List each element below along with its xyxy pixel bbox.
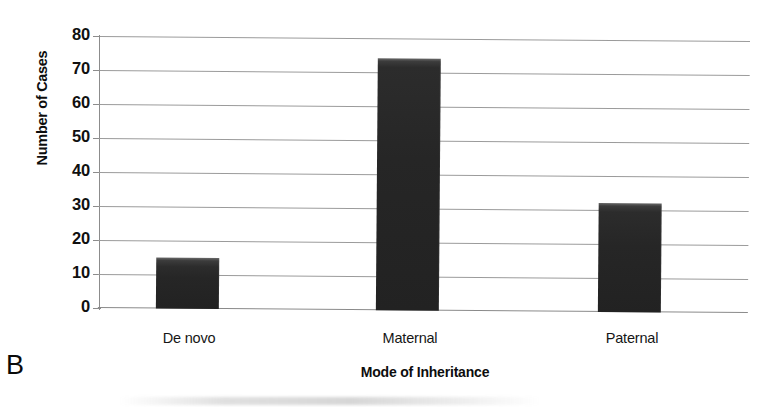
panel-label: B	[6, 352, 24, 379]
x-tick-label-de-novo: De novo	[129, 330, 249, 346]
y-tick-label-30: 30	[38, 196, 90, 213]
y-tick-label-60: 60	[38, 94, 90, 111]
plot-area	[100, 36, 750, 308]
y-tick-label-70: 70	[38, 60, 90, 77]
bar-de-novo[interactable]	[156, 257, 219, 308]
y-tick-label-50: 50	[38, 128, 90, 145]
x-axis-title: Mode of Inheritance	[100, 364, 750, 380]
scan-artifact	[120, 397, 540, 405]
bar-paternal[interactable]	[598, 203, 662, 312]
x-tick-label-maternal: Maternal	[350, 330, 470, 346]
y-axis-tick-labels: 80 70 60 50 40 30 20 10 0	[38, 26, 90, 314]
y-tick-label-80: 80	[38, 26, 90, 43]
x-axis-tick-labels: De novo Maternal Paternal	[100, 330, 750, 356]
y-tick-label-40: 40	[38, 162, 90, 179]
y-tick-label-10: 10	[38, 264, 90, 281]
bar-maternal[interactable]	[376, 59, 441, 311]
bar-chart-figure: Number of Cases 80 70 60 50 40 30 20 10 …	[0, 0, 762, 407]
y-tick-label-0: 0	[38, 298, 90, 315]
y-tick-mark-0	[93, 308, 101, 309]
gridline-80	[100, 36, 750, 42]
x-tick-label-paternal: Paternal	[572, 330, 692, 346]
y-tick-label-20: 20	[38, 230, 90, 247]
